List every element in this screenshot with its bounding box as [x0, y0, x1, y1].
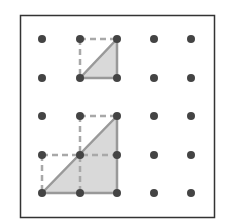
peg-dot [150, 74, 158, 82]
peg-dot [187, 74, 195, 82]
peg-dot [76, 112, 84, 120]
peg-dot [76, 189, 84, 197]
peg-dot [187, 189, 195, 197]
peg-dot [38, 151, 46, 159]
peg-dot [38, 74, 46, 82]
peg-dot [38, 35, 46, 43]
peg-dot [187, 112, 195, 120]
peg-dot [76, 151, 84, 159]
peg-dot [113, 35, 121, 43]
peg-dot [187, 35, 195, 43]
peg-dot [38, 112, 46, 120]
peg-dot [76, 35, 84, 43]
peg-dot [113, 112, 121, 120]
peg-dot [38, 189, 46, 197]
peg-dot [113, 74, 121, 82]
peg-dot [113, 189, 121, 197]
peg-dot [187, 151, 195, 159]
peg-dot [150, 189, 158, 197]
peg-dot [76, 74, 84, 82]
peg-dot [150, 112, 158, 120]
geoboard-diagram [0, 0, 228, 223]
peg-dot [150, 151, 158, 159]
peg-dot [150, 35, 158, 43]
peg-dot [113, 151, 121, 159]
